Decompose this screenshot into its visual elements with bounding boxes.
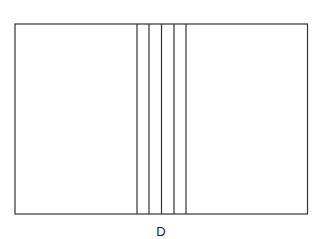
- diagram-d: D: [0, 0, 325, 239]
- vertical-lines-group: [137, 24, 186, 214]
- diagram-canvas: [0, 0, 325, 239]
- diagram-label: D: [0, 224, 322, 239]
